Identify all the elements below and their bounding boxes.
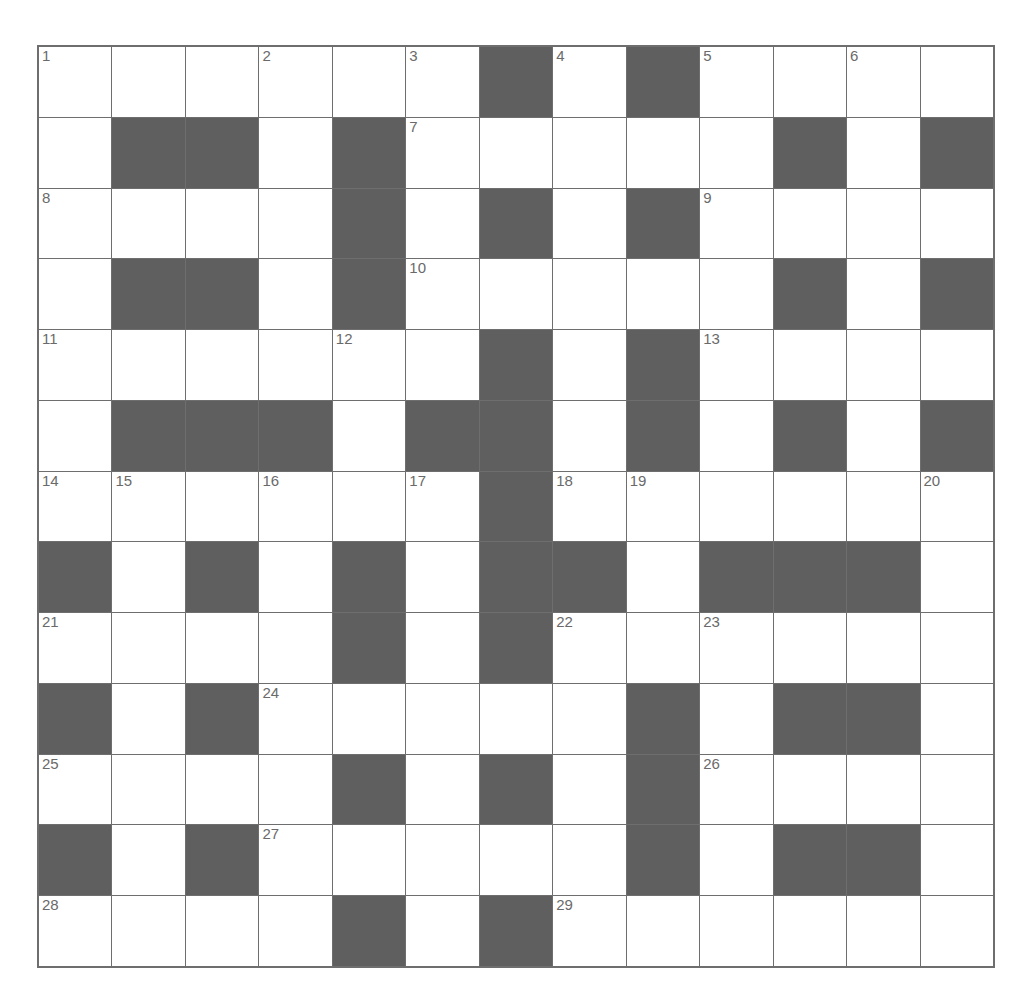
letter-cell[interactable]: [186, 330, 258, 400]
letter-cell[interactable]: [774, 47, 846, 117]
letter-cell[interactable]: [112, 825, 184, 895]
letter-cell[interactable]: [259, 259, 331, 329]
letter-cell[interactable]: [480, 259, 552, 329]
letter-cell[interactable]: [774, 472, 846, 542]
letter-cell[interactable]: 1: [39, 47, 111, 117]
letter-cell[interactable]: [847, 401, 919, 471]
letter-cell[interactable]: [553, 401, 625, 471]
letter-cell[interactable]: [333, 825, 405, 895]
letter-cell[interactable]: [406, 896, 478, 966]
letter-cell[interactable]: 21: [39, 613, 111, 683]
letter-cell[interactable]: 19: [627, 472, 699, 542]
letter-cell[interactable]: [480, 684, 552, 754]
letter-cell[interactable]: [333, 401, 405, 471]
letter-cell[interactable]: 25: [39, 755, 111, 825]
letter-cell[interactable]: 7: [406, 118, 478, 188]
letter-cell[interactable]: [774, 330, 846, 400]
letter-cell[interactable]: [112, 755, 184, 825]
letter-cell[interactable]: [921, 755, 993, 825]
letter-cell[interactable]: [186, 189, 258, 259]
letter-cell[interactable]: [553, 755, 625, 825]
letter-cell[interactable]: [627, 613, 699, 683]
letter-cell[interactable]: [700, 684, 772, 754]
letter-cell[interactable]: [847, 896, 919, 966]
letter-cell[interactable]: [259, 118, 331, 188]
letter-cell[interactable]: 5: [700, 47, 772, 117]
letter-cell[interactable]: [406, 755, 478, 825]
letter-cell[interactable]: [553, 330, 625, 400]
letter-cell[interactable]: 29: [553, 896, 625, 966]
letter-cell[interactable]: [406, 330, 478, 400]
letter-cell[interactable]: [112, 684, 184, 754]
letter-cell[interactable]: 17: [406, 472, 478, 542]
letter-cell[interactable]: [847, 189, 919, 259]
letter-cell[interactable]: [186, 613, 258, 683]
letter-cell[interactable]: [259, 755, 331, 825]
letter-cell[interactable]: [774, 189, 846, 259]
letter-cell[interactable]: [921, 189, 993, 259]
letter-cell[interactable]: [259, 330, 331, 400]
letter-cell[interactable]: 27: [259, 825, 331, 895]
letter-cell[interactable]: [112, 330, 184, 400]
letter-cell[interactable]: 20: [921, 472, 993, 542]
letter-cell[interactable]: [259, 896, 331, 966]
letter-cell[interactable]: [700, 896, 772, 966]
letter-cell[interactable]: [259, 189, 331, 259]
letter-cell[interactable]: [627, 542, 699, 612]
letter-cell[interactable]: [186, 896, 258, 966]
letter-cell[interactable]: [333, 47, 405, 117]
letter-cell[interactable]: [627, 118, 699, 188]
letter-cell[interactable]: [39, 401, 111, 471]
letter-cell[interactable]: [553, 825, 625, 895]
letter-cell[interactable]: [627, 259, 699, 329]
letter-cell[interactable]: [112, 613, 184, 683]
letter-cell[interactable]: [259, 542, 331, 612]
letter-cell[interactable]: 6: [847, 47, 919, 117]
letter-cell[interactable]: [553, 259, 625, 329]
letter-cell[interactable]: 15: [112, 472, 184, 542]
letter-cell[interactable]: [700, 401, 772, 471]
letter-cell[interactable]: [406, 684, 478, 754]
letter-cell[interactable]: [406, 542, 478, 612]
letter-cell[interactable]: [406, 189, 478, 259]
letter-cell[interactable]: [553, 118, 625, 188]
letter-cell[interactable]: [921, 330, 993, 400]
letter-cell[interactable]: [259, 613, 331, 683]
letter-cell[interactable]: [480, 825, 552, 895]
letter-cell[interactable]: 4: [553, 47, 625, 117]
letter-cell[interactable]: [553, 189, 625, 259]
letter-cell[interactable]: [847, 613, 919, 683]
letter-cell[interactable]: [774, 755, 846, 825]
letter-cell[interactable]: 11: [39, 330, 111, 400]
letter-cell[interactable]: 24: [259, 684, 331, 754]
letter-cell[interactable]: [333, 684, 405, 754]
letter-cell[interactable]: 3: [406, 47, 478, 117]
letter-cell[interactable]: 18: [553, 472, 625, 542]
letter-cell[interactable]: [774, 613, 846, 683]
letter-cell[interactable]: [921, 684, 993, 754]
letter-cell[interactable]: [186, 755, 258, 825]
letter-cell[interactable]: 28: [39, 896, 111, 966]
letter-cell[interactable]: 13: [700, 330, 772, 400]
letter-cell[interactable]: 23: [700, 613, 772, 683]
letter-cell[interactable]: [847, 330, 919, 400]
letter-cell[interactable]: [921, 47, 993, 117]
letter-cell[interactable]: [112, 896, 184, 966]
letter-cell[interactable]: [921, 896, 993, 966]
letter-cell[interactable]: [186, 47, 258, 117]
letter-cell[interactable]: 8: [39, 189, 111, 259]
letter-cell[interactable]: [333, 472, 405, 542]
letter-cell[interactable]: [700, 825, 772, 895]
letter-cell[interactable]: 12: [333, 330, 405, 400]
letter-cell[interactable]: [700, 472, 772, 542]
letter-cell[interactable]: [553, 684, 625, 754]
letter-cell[interactable]: [847, 259, 919, 329]
letter-cell[interactable]: [480, 118, 552, 188]
letter-cell[interactable]: [112, 542, 184, 612]
letter-cell[interactable]: [39, 259, 111, 329]
letter-cell[interactable]: [921, 613, 993, 683]
letter-cell[interactable]: [112, 189, 184, 259]
letter-cell[interactable]: [847, 755, 919, 825]
letter-cell[interactable]: 9: [700, 189, 772, 259]
letter-cell[interactable]: [627, 896, 699, 966]
